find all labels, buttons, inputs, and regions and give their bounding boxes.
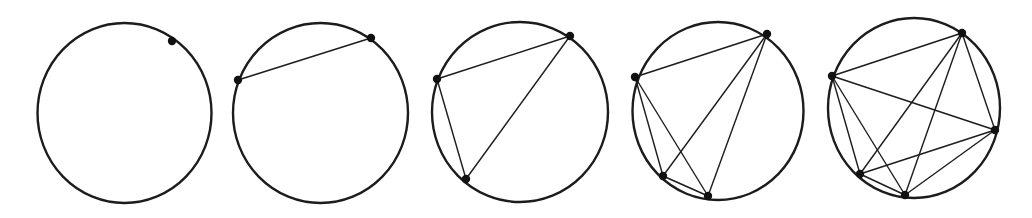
- point-marker: [367, 34, 375, 42]
- point-marker: [704, 192, 712, 200]
- point-marker: [659, 172, 667, 180]
- chord-line: [708, 34, 767, 196]
- point-marker: [991, 126, 999, 134]
- panel-2-points: [233, 23, 408, 203]
- chord-line: [905, 33, 962, 195]
- panel-4-points: [631, 22, 804, 200]
- chord-line: [832, 76, 905, 195]
- point-marker: [958, 29, 966, 37]
- chord-line: [437, 36, 570, 79]
- chord-line: [860, 33, 962, 174]
- circle-outline: [432, 22, 608, 202]
- point-marker: [901, 191, 909, 199]
- chord-line: [832, 33, 962, 76]
- panel-3-points: [432, 22, 608, 202]
- chord-line: [437, 79, 466, 179]
- chord-line: [466, 36, 570, 179]
- circle-chord-diagram: [0, 0, 1032, 218]
- circle-outline: [38, 23, 212, 203]
- chord-line: [635, 34, 767, 77]
- panel-5-points: [828, 18, 1000, 199]
- point-marker: [462, 175, 470, 183]
- point-marker: [763, 30, 771, 38]
- chord-line: [832, 76, 860, 174]
- circle-outline: [233, 23, 408, 203]
- point-marker: [234, 76, 242, 84]
- point-marker: [566, 32, 574, 40]
- chord-line: [832, 76, 995, 130]
- chord-line: [860, 130, 995, 174]
- point-marker: [631, 73, 639, 81]
- circle-outline: [633, 22, 804, 200]
- point-marker: [856, 170, 864, 178]
- chord-line: [238, 38, 371, 80]
- panel-1-points: [38, 23, 212, 203]
- chord-line: [635, 77, 708, 196]
- chord-line: [635, 77, 663, 176]
- point-marker: [433, 75, 441, 83]
- point-marker: [168, 37, 176, 45]
- chord-line: [663, 34, 767, 176]
- point-marker: [828, 72, 836, 80]
